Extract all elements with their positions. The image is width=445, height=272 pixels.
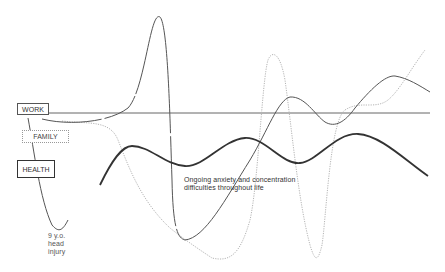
injury-line-2: head bbox=[48, 240, 72, 248]
injury-line-3: injury bbox=[48, 248, 72, 256]
injury-annotation: 9 y.o. head injury bbox=[48, 232, 72, 256]
family-label-text: FAMILY bbox=[33, 133, 57, 140]
anxiety-line-1: Ongoing anxiety and concentration bbox=[184, 176, 314, 184]
family-label: FAMILY bbox=[22, 130, 69, 143]
work-label: WORK bbox=[17, 103, 49, 115]
family-curve bbox=[62, 50, 425, 259]
injury-line-1: 9 y.o. bbox=[48, 232, 72, 240]
work-label-text: WORK bbox=[22, 106, 44, 113]
health-label-text: HEALTH bbox=[22, 166, 49, 173]
anxiety-annotation: Ongoing anxiety and concentration diffic… bbox=[184, 176, 314, 192]
work-curve-2 bbox=[42, 17, 430, 240]
anxiety-line-2: difficulties throughout life bbox=[184, 184, 314, 192]
health-label: HEALTH bbox=[17, 160, 55, 178]
